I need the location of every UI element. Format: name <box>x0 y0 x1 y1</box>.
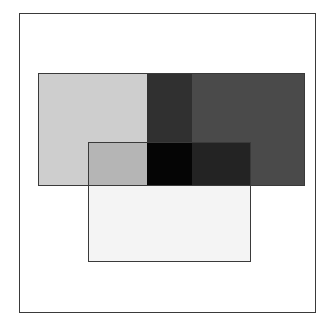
figure-canvas <box>0 0 336 335</box>
region-overlap-left-medium-gray <box>88 142 147 186</box>
region-lower-only-near-white <box>88 186 251 262</box>
region-overlap-right-very-dark <box>192 142 251 186</box>
region-overlap-center-black <box>147 142 192 186</box>
